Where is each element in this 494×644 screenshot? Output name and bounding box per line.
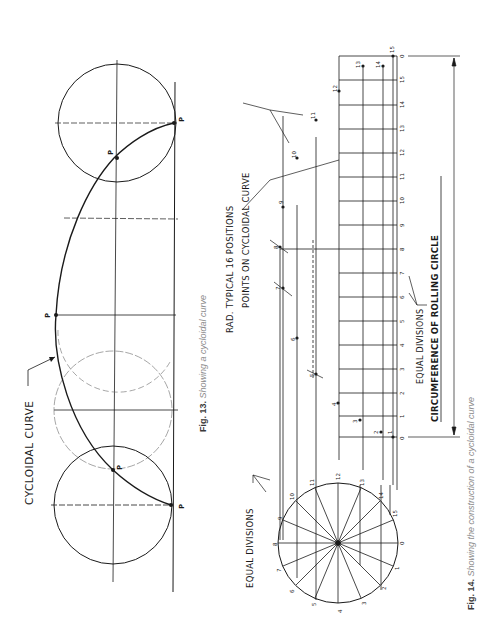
svg-text:10: 10: [399, 197, 405, 204]
point-label: P: [44, 313, 52, 318]
points-on-curve-label: POINTS ON CYCLOIDAL CURVE: [241, 172, 251, 308]
point-label: P: [178, 117, 186, 122]
svg-text:2: 2: [373, 431, 379, 435]
fig13-curve-leader: [28, 357, 55, 386]
fig13-cycloid-drawing: [51, 60, 178, 592]
point-label: P: [116, 465, 124, 470]
svg-text:1: 1: [394, 567, 400, 571]
svg-text:6: 6: [399, 295, 405, 299]
svg-text:4: 4: [399, 343, 405, 347]
point-label: P: [178, 504, 186, 509]
svg-text:4: 4: [331, 402, 337, 406]
fig14-construction-grid: [280, 56, 397, 600]
svg-text:14: 14: [399, 101, 405, 108]
svg-text:13: 13: [359, 479, 365, 486]
svg-text:15: 15: [392, 510, 398, 517]
svg-text:14: 14: [375, 61, 381, 68]
svg-text:11: 11: [310, 112, 316, 119]
svg-text:5: 5: [311, 602, 317, 606]
svg-text:10: 10: [289, 493, 295, 500]
svg-text:15: 15: [399, 76, 405, 83]
rad-typical-label: RAD. TYPICAL 16 POSITIONS: [225, 206, 235, 333]
fig14-baseline-tick-labels: 0 15 14 13 12 11 10 9 8 7 6 5 4 3 2 1 0: [399, 54, 405, 440]
svg-text:9: 9: [399, 223, 405, 227]
svg-text:3: 3: [399, 367, 405, 371]
fig13-caption-number: Fig. 13.: [198, 401, 208, 432]
svg-text:8: 8: [272, 542, 278, 546]
svg-text:8: 8: [399, 247, 405, 251]
svg-text:3: 3: [361, 601, 367, 605]
fig13-caption: Fig. 13. Showing a cycloidal curve: [198, 295, 208, 432]
svg-text:0: 0: [399, 54, 405, 58]
svg-text:1: 1: [399, 415, 405, 419]
fig14-caption-number: Fig. 14.: [466, 579, 476, 610]
svg-text:12: 12: [332, 85, 338, 92]
svg-text:3: 3: [352, 419, 358, 423]
svg-text:6: 6: [290, 337, 296, 341]
svg-text:5: 5: [399, 319, 405, 323]
equal-divisions-circle-label: EQUAL DIVISIONS: [245, 508, 255, 588]
svg-text:13: 13: [355, 61, 361, 68]
svg-text:9: 9: [278, 200, 284, 204]
svg-text:13: 13: [399, 125, 405, 132]
point-label: P: [107, 150, 115, 155]
fig14-generating-circle: [278, 483, 398, 603]
svg-text:10: 10: [291, 151, 297, 158]
fig14-caption-text: Showing the construction of a cycloidal …: [466, 397, 476, 579]
svg-text:4: 4: [337, 609, 343, 613]
fig14-caption: Fig. 14. Showing the construction of a c…: [466, 397, 476, 610]
cycloidal-curve-label: CYCLOIDAL CURVE: [23, 401, 35, 505]
svg-text:7: 7: [399, 271, 405, 275]
svg-text:7: 7: [276, 568, 282, 572]
svg-text:6: 6: [289, 589, 295, 593]
svg-text:11: 11: [399, 173, 405, 180]
svg-text:0: 0: [399, 436, 405, 440]
svg-text:2: 2: [381, 587, 387, 591]
equal-divisions-baseline-label: EQUAL DIVISIONS: [416, 309, 425, 384]
fig13-caption-text: Showing a cycloidal curve: [198, 295, 208, 401]
svg-text:12: 12: [335, 473, 341, 480]
drawing-canvas: P P P P P CYCLOIDAL CURVE Fig. 13. Showi…: [0, 0, 494, 644]
svg-text:11: 11: [309, 479, 315, 486]
svg-text:15: 15: [389, 46, 395, 53]
svg-text:2: 2: [399, 392, 405, 396]
circumference-label: CIRCUMFERENCE OF ROLLING CIRCLE: [430, 235, 440, 422]
fig14-curve-points: 1 2 3 4 5 6 7 8 9 10 11 12 13 14 15: [270, 46, 395, 439]
svg-text:1: 1: [387, 431, 393, 435]
svg-text:12: 12: [399, 149, 405, 156]
svg-text:9: 9: [277, 516, 283, 520]
svg-text:14: 14: [378, 492, 384, 499]
svg-text:0: 0: [399, 541, 405, 545]
